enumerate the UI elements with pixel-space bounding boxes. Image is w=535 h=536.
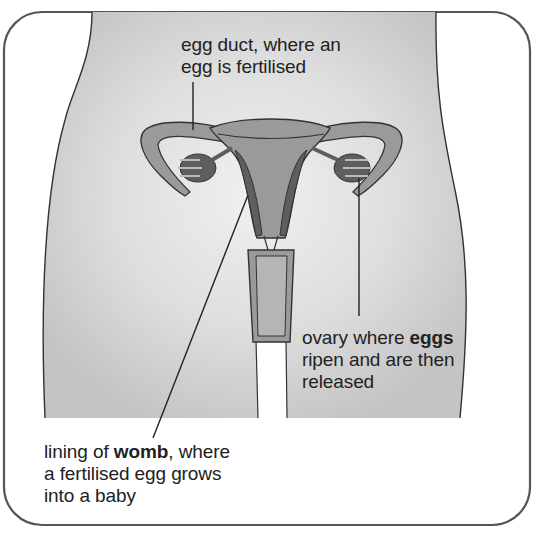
leg-gap [256, 340, 287, 418]
label-womb-text: lining of [44, 441, 114, 462]
label-ovary-line2: ripen and are then [302, 349, 454, 371]
label-womb-text-post: , where [168, 441, 230, 462]
label-womb-line3: into a baby [44, 485, 230, 507]
label-egg-duct-line1: egg duct, where an [181, 34, 341, 56]
label-womb-bold-term: womb [114, 441, 169, 462]
label-ovary-text: ovary where [302, 327, 410, 348]
label-womb-line1: lining of womb, where [44, 441, 230, 463]
label-ovary-line3: released [302, 371, 454, 393]
label-ovary-line1: ovary where eggs [302, 327, 454, 349]
label-egg-duct: egg duct, where an egg is fertilised [181, 34, 341, 78]
label-womb: lining of womb, where a fertilised egg g… [44, 441, 230, 507]
label-egg-duct-line2: egg is fertilised [181, 56, 341, 78]
label-ovary-bold-term: eggs [410, 327, 454, 348]
label-womb-line2: a fertilised egg grows [44, 463, 230, 485]
label-ovary: ovary where eggs ripen and are then rele… [302, 327, 454, 393]
